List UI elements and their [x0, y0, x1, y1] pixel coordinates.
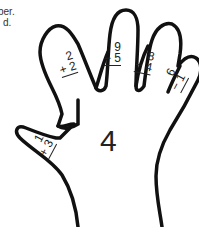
middle-bottom-number: − 5 — [104, 53, 121, 66]
middle-problem: 9 − 5 — [104, 42, 121, 66]
hand-outline — [0, 0, 199, 227]
palm-answer-number: 4 — [100, 124, 117, 158]
